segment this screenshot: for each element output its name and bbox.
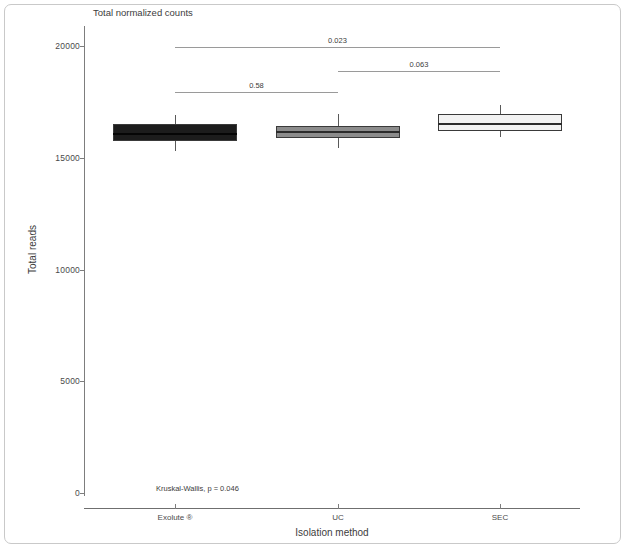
y-tick-label: 5000 (34, 376, 80, 386)
whisker-lower (500, 131, 501, 137)
y-axis-title: Total reads (27, 190, 38, 310)
x-axis-title: Isolation method (84, 527, 580, 538)
x-tick-label-2: SEC (440, 513, 560, 522)
whisker-lower (338, 138, 339, 148)
significance-bracket-line-2 (175, 92, 338, 93)
boxplot-figure: Total normalized counts 0500010000150002… (0, 0, 625, 548)
significance-pvalue-label-2: 0.58 (249, 81, 264, 90)
plot-area: Total normalized counts 0500010000150002… (0, 0, 625, 548)
significance-pvalue-label-0: 0.023 (328, 36, 347, 45)
x-axis-line (84, 508, 580, 509)
y-axis-line (84, 26, 85, 496)
whisker-upper (175, 115, 176, 124)
significance-bracket-line-0 (175, 47, 500, 48)
y-tick-label: 0 (34, 488, 80, 498)
y-tick-label: 15000 (34, 153, 80, 163)
significance-pvalue-label-1: 0.063 (410, 60, 429, 69)
median-line (113, 133, 237, 135)
x-tick-label-0: Exolute ® (115, 513, 235, 522)
x-tick-label-1: UC (278, 513, 398, 522)
x-tick-mark (500, 504, 501, 509)
y-tick-label: 20000 (34, 41, 80, 51)
x-tick-mark (338, 504, 339, 509)
whisker-lower (175, 141, 176, 151)
median-line (438, 123, 562, 125)
whisker-upper (338, 114, 339, 126)
whisker-upper (500, 105, 501, 114)
chart-title: Total normalized counts (93, 7, 193, 18)
y-tick-mark (80, 381, 85, 382)
median-line (276, 131, 400, 133)
x-tick-mark (175, 504, 176, 509)
y-tick-label: 10000 (34, 265, 80, 275)
y-tick-mark (80, 270, 85, 271)
significance-bracket-line-1 (338, 71, 500, 72)
y-tick-mark (80, 493, 85, 494)
y-tick-mark (80, 46, 85, 47)
y-tick-mark (80, 158, 85, 159)
omnibus-test-annotation: Kruskal-Wallis, p = 0.046 (156, 484, 239, 493)
